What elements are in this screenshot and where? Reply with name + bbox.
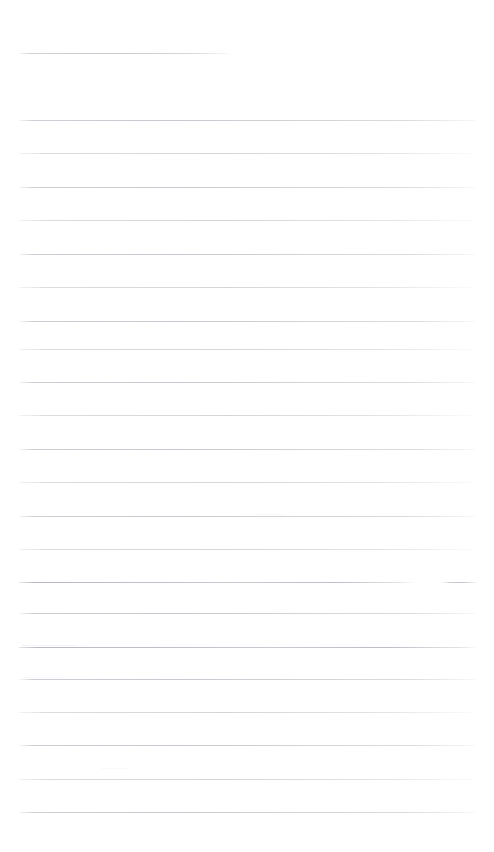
rule-21 [19, 779, 478, 780]
scanned-page [0, 0, 494, 852]
rule-16 [19, 613, 478, 614]
rule-8 [19, 349, 478, 350]
rule-15 [19, 582, 415, 583]
rule-13 [19, 516, 478, 517]
rule-14 [19, 549, 478, 550]
smudge-mid-516 [255, 514, 285, 515]
rule-19 [19, 712, 478, 713]
rule-12 [19, 482, 478, 483]
rule-10 [19, 415, 478, 416]
rule-1 [19, 120, 478, 121]
rule-2 [19, 153, 478, 154]
rule-20 [19, 745, 478, 746]
gap-582-right [413, 581, 441, 584]
rule-18 [19, 679, 478, 680]
right-edge-dash [441, 582, 478, 583]
rule-5 [19, 254, 478, 255]
rule-22 [19, 812, 478, 813]
rule-7 [19, 321, 478, 322]
rule-4 [19, 220, 478, 221]
rule-9 [19, 382, 478, 383]
rule-11 [19, 449, 478, 450]
rule-6 [19, 287, 478, 288]
rule-0-top-short [19, 53, 232, 54]
smudge-left-770 [100, 768, 128, 769]
smudge-left-647 [22, 645, 77, 646]
rule-17 [19, 647, 478, 648]
smudge-left-679 [22, 677, 64, 678]
rule-3 [19, 187, 478, 188]
